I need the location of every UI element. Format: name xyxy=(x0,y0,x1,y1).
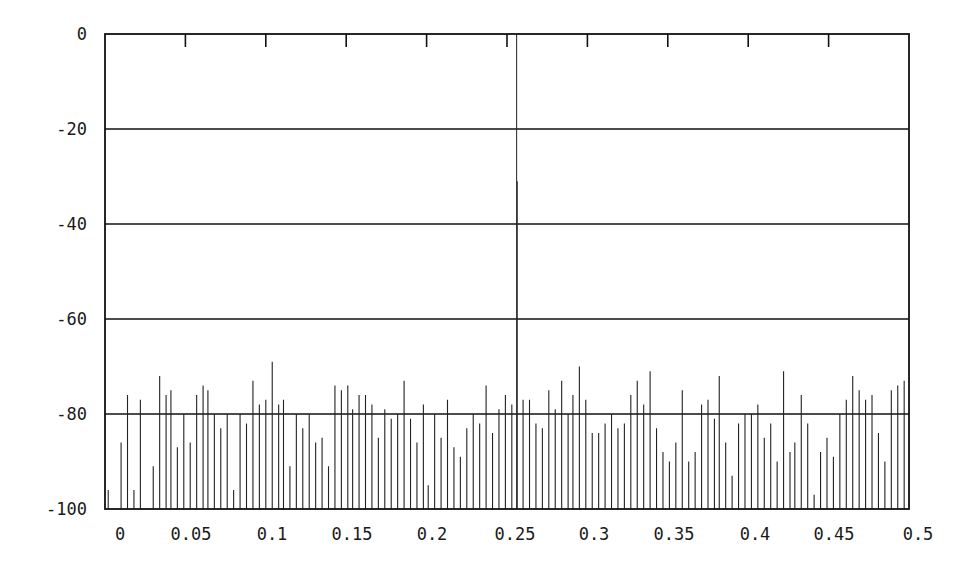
x-tick-label: 0.05 xyxy=(171,524,212,544)
x-tick-label: 0.15 xyxy=(332,524,373,544)
y-tick-label: -80 xyxy=(56,404,87,424)
x-tick-label: 0.45 xyxy=(814,524,855,544)
x-tick-label: 0.3 xyxy=(579,524,610,544)
x-tick-label: 0.4 xyxy=(740,524,771,544)
spectrum-chart: 0-20-40-60-80-100 00.050.10.150.20.250.3… xyxy=(0,0,972,568)
y-tick-label: -40 xyxy=(56,214,87,234)
y-tick-label: 0 xyxy=(77,24,87,44)
y-tick-label: -60 xyxy=(56,309,87,329)
y-tick-label: -20 xyxy=(56,119,87,139)
y-axis-labels: 0-20-40-60-80-100 xyxy=(46,24,87,519)
plot-frame xyxy=(105,34,909,509)
spectrum-stems xyxy=(108,34,904,509)
x-tick-label: 0.2 xyxy=(417,524,448,544)
x-tick-label: 0.25 xyxy=(495,524,536,544)
x-tick-label: 0.5 xyxy=(903,524,934,544)
x-tick-label: 0.1 xyxy=(257,524,288,544)
x-tick-label: 0 xyxy=(115,524,125,544)
x-axis-labels: 00.050.10.150.20.250.30.350.40.450.5 xyxy=(115,524,933,544)
y-tick-label: -100 xyxy=(46,499,87,519)
plot-border xyxy=(105,34,909,509)
x-tick-label: 0.35 xyxy=(654,524,695,544)
axis-ticks xyxy=(185,34,828,47)
grid-lines xyxy=(105,129,909,414)
